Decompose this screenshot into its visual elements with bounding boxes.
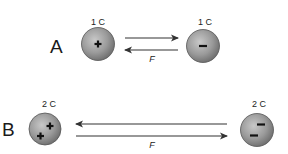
scenario-a: A 1 C F 1 C [50,17,220,64]
scenario-b: B 2 C F 2 C [2,99,274,150]
charge-magnitude-label: 1 C [91,17,106,27]
sphere [241,114,274,147]
positive-charge-sphere [29,113,61,145]
positive-charge-sphere [82,28,115,61]
sphere [29,113,61,145]
negative-charge-sphere [241,114,274,147]
charge-magnitude-label: 2 C [252,99,267,109]
scenario-label-a: A [50,36,63,57]
charge-magnitude-label: 2 C [42,99,57,109]
force-label: F [149,54,155,64]
scenario-label-b: B [2,119,15,140]
negative-charge-sphere [187,30,220,63]
charge-magnitude-label: 1 C [198,17,213,27]
coulomb-diagram: A 1 C F 1 C B 2 C [0,0,288,154]
force-label: F [149,140,155,150]
